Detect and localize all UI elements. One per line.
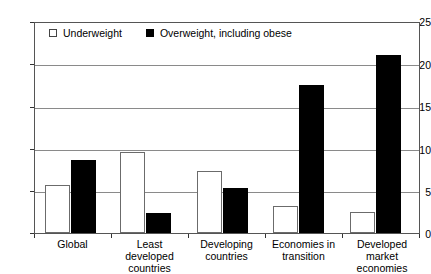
x-category-label-developing-countries: Developing countries	[188, 238, 265, 262]
legend-label-underweight: Underweight	[63, 27, 122, 39]
legend-label-overweight: Overweight, including obese	[160, 27, 292, 39]
bar-overweight-least-developed-countries	[146, 213, 171, 233]
bar-overweight-economies-in-transition	[299, 85, 324, 233]
legend-item-overweight: Overweight, including obese	[146, 27, 292, 39]
bar-overweight-developed-market-economies	[376, 55, 401, 233]
x-category-label-economies-in-transition: Economies in transition	[265, 238, 342, 262]
bar-overweight-developing-countries	[223, 188, 248, 233]
x-category-label-global: Global	[34, 238, 111, 250]
light-square-icon	[49, 29, 57, 37]
bar-series-group	[35, 23, 419, 233]
legend-item-underweight: Underweight	[49, 27, 122, 39]
x-category-label-developed-market-economies: Developed market economies	[340, 238, 424, 274]
x-category-label-least-developed-countries: Least developed countries	[111, 238, 188, 274]
bar-underweight-least-developed-countries	[120, 152, 145, 233]
bar-overweight-global	[71, 160, 96, 233]
bar-underweight-global	[45, 185, 70, 233]
bar-underweight-economies-in-transition	[273, 206, 298, 233]
plot-area: Underweight Overweight, including obese	[34, 22, 420, 234]
bar-underweight-developed-market-economies	[350, 212, 375, 233]
bar-underweight-developing-countries	[197, 171, 222, 233]
legend: Underweight Overweight, including obese	[49, 27, 292, 39]
dark-square-icon	[146, 29, 154, 37]
